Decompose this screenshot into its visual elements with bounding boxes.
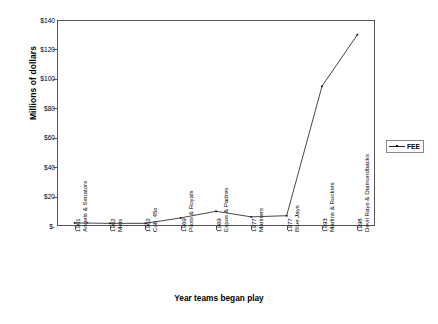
legend-line-marker-icon [389,143,405,150]
x-axis-category-label-text: 1977Mariners [251,208,264,232]
x-axis-category-teams: Expos & Padres [223,188,230,232]
series-data-point [321,85,323,87]
x-axis-category-label-text: 1961Angels & Senators [75,181,88,232]
series-layer [0,0,438,324]
x-axis-category-label-text: 1969Expos & Padres [216,188,229,232]
x-axis-category-label-text: 1969Pilots & Royals [181,190,194,232]
x-axis-category-teams: Colt .45s [152,208,159,232]
x-axis-category-teams: Angels & Senators [81,181,88,232]
x-axis-category-teams: Devil Rays & Diamondbacks [364,154,371,232]
x-axis-category-label-text: 1962Colt .45s [145,208,158,232]
series-data-point [356,34,358,36]
x-axis-category-label-text: 1998Devil Rays & Diamondbacks [357,154,370,232]
x-axis-category-teams: Pilots & Royals [187,190,194,232]
x-axis-category-label-text: 1993Marlins & Rockies [322,182,335,232]
x-axis-title: Year teams began play [0,293,438,303]
x-axis-category-teams: Mets [117,218,124,232]
x-axis-category-label-text: 1977Blue Jays [287,205,300,232]
legend-label-fee: FEE [407,143,420,150]
x-axis-category-label-text: 1962Mets [110,218,123,232]
legend: FEE [386,140,424,153]
x-axis-category-teams: Blue Jays [293,205,300,232]
x-axis-category-teams: Marlins & Rockies [329,182,336,232]
x-axis-category-teams: Mariners [258,208,265,232]
chart-root: Millions of dollars $-$20$40$60$80$100$1… [0,0,438,324]
